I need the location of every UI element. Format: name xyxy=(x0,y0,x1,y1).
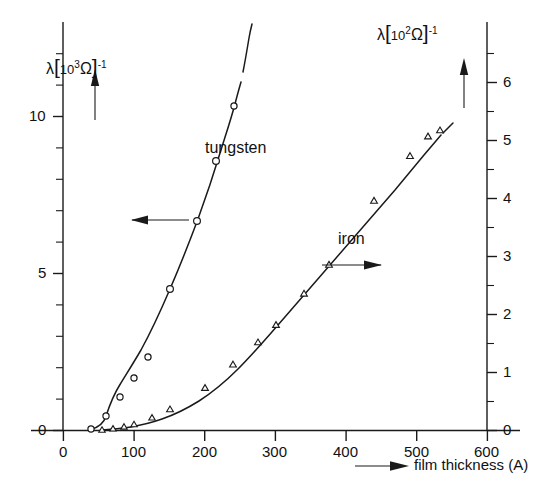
right-tick-label-2: 2 xyxy=(503,305,511,322)
right-axis-up-arrow xyxy=(460,58,468,108)
right-tick-label-1: 1 xyxy=(503,363,511,380)
iron-pointer-arrow xyxy=(322,261,382,270)
figure-plot: λ[103Ω]-1 λ[102Ω]-1 0 5 10 0 1 2 3 4 5 6… xyxy=(0,0,549,486)
x-tick-label-100: 100 xyxy=(121,443,146,460)
x-tick-label-0: 0 xyxy=(59,443,67,460)
right-axis-base: 10 xyxy=(391,28,405,43)
right-tick-label-6: 6 xyxy=(503,73,511,90)
right-tick-label-4: 4 xyxy=(503,189,511,206)
right-axis-lambda: λ xyxy=(377,26,385,43)
left-axis-power: -1 xyxy=(98,59,107,70)
right-axis xyxy=(487,22,497,431)
left-axis-lambda: λ xyxy=(46,60,54,77)
left-axis xyxy=(53,22,63,431)
right-axis-ohm: Ω xyxy=(411,26,423,43)
annotation-iron: iron xyxy=(338,230,365,248)
left-tick-label-0: 0 xyxy=(38,421,46,438)
left-axis-base: 10 xyxy=(60,62,74,77)
right-tick-label-3: 3 xyxy=(503,247,511,264)
x-tick-label-300: 300 xyxy=(262,443,287,460)
annotation-tungsten: tungsten xyxy=(205,139,266,157)
series-tungsten xyxy=(88,24,252,432)
x-tick-label-200: 200 xyxy=(192,443,217,460)
right-axis-power: -1 xyxy=(429,25,438,36)
x-tick-label-400: 400 xyxy=(333,443,358,460)
right-tick-label-0: 0 xyxy=(503,421,511,438)
left-axis-label: λ[103Ω]-1 xyxy=(46,56,107,78)
left-tick-label-5: 5 xyxy=(38,264,46,281)
left-tick-label-10: 10 xyxy=(29,107,46,124)
right-axis-label: λ[102Ω]-1 xyxy=(377,22,438,44)
right-tick-label-5: 5 xyxy=(503,131,511,148)
left-axis-ohm: Ω xyxy=(80,60,92,77)
series-iron xyxy=(99,123,453,432)
x-axis-arrow xyxy=(355,461,409,470)
x-axis-title: film thickness (A) xyxy=(414,456,528,473)
tungsten-pointer-arrow xyxy=(131,216,189,225)
